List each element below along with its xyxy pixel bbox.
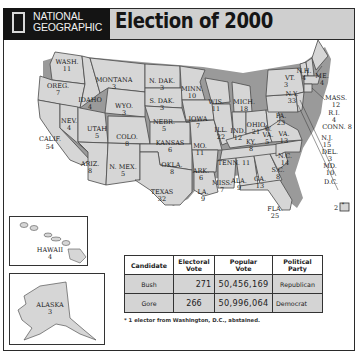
cell-party: Republican xyxy=(273,275,323,294)
svg-text:7: 7 xyxy=(56,89,60,97)
svg-text:8: 8 xyxy=(170,168,174,176)
header-political-party: PoliticalParty xyxy=(273,256,323,275)
svg-text:13: 13 xyxy=(280,137,288,145)
cell-electoral: 266 xyxy=(174,294,215,313)
cell-candidate: Gore xyxy=(125,294,174,313)
svg-text:54: 54 xyxy=(46,143,54,151)
table-row: Gore 266 50,996,064 Democrat xyxy=(125,294,323,313)
svg-text:11: 11 xyxy=(63,65,71,73)
svg-text:14: 14 xyxy=(281,159,289,167)
state-conn xyxy=(304,84,312,92)
svg-text:4: 4 xyxy=(302,74,306,82)
table-row: Bush 271 50,456,169 Republican xyxy=(125,275,323,294)
svg-text:3: 3 xyxy=(122,109,126,117)
svg-text:5: 5 xyxy=(121,170,125,178)
footnote: * 1 elector from Washington, D.C., absta… xyxy=(124,317,260,323)
svg-text:10: 10 xyxy=(326,169,334,177)
svg-text:4: 4 xyxy=(88,103,92,111)
svg-text:8: 8 xyxy=(249,145,253,153)
svg-text:25: 25 xyxy=(271,212,279,220)
svg-text:12: 12 xyxy=(234,134,242,142)
header-popular-vote: PopularVote xyxy=(215,256,273,275)
svg-text:3: 3 xyxy=(160,104,164,112)
svg-text:23: 23 xyxy=(277,119,285,127)
svg-text:2: 2 xyxy=(334,204,338,212)
cell-candidate: Bush xyxy=(125,275,174,294)
svg-text:5: 5 xyxy=(162,125,166,133)
svg-text:13: 13 xyxy=(256,182,264,190)
svg-text:7: 7 xyxy=(196,122,200,130)
cell-electoral: 271 xyxy=(174,275,215,294)
table-header-row: Candidate ElectoralVote PopularVote Poli… xyxy=(125,256,323,275)
svg-text:7: 7 xyxy=(220,186,224,194)
header-candidate: Candidate xyxy=(125,256,174,275)
svg-text:11: 11 xyxy=(212,105,220,113)
svg-text:22: 22 xyxy=(217,133,225,141)
hawaii-inset: HAWAII 4 xyxy=(9,216,88,266)
svg-text:CONN. 8: CONN. 8 xyxy=(322,123,352,131)
svg-text:D.C.: D.C. xyxy=(324,178,338,186)
svg-text:8: 8 xyxy=(276,173,280,181)
svg-text:3: 3 xyxy=(112,83,116,91)
svg-text:3: 3 xyxy=(284,81,288,89)
svg-text:11: 11 xyxy=(196,149,204,157)
svg-text:33: 33 xyxy=(288,97,296,105)
svg-text:3: 3 xyxy=(48,308,52,316)
svg-text:4: 4 xyxy=(48,253,52,261)
svg-text:3: 3 xyxy=(160,84,164,92)
svg-text:32: 32 xyxy=(158,195,166,203)
svg-text:9: 9 xyxy=(237,184,241,192)
svg-text:8: 8 xyxy=(88,167,92,175)
svg-text:4: 4 xyxy=(320,79,324,87)
svg-text:8: 8 xyxy=(125,140,129,148)
svg-text:10: 10 xyxy=(188,92,196,100)
svg-text:5: 5 xyxy=(95,132,99,140)
cell-popular: 50,456,169 xyxy=(215,275,273,294)
svg-text:9: 9 xyxy=(201,195,205,203)
svg-text:TENN. 11: TENN. 11 xyxy=(218,159,250,167)
svg-text:12: 12 xyxy=(332,101,340,109)
svg-text:4: 4 xyxy=(67,124,71,132)
svg-text:18: 18 xyxy=(240,105,248,113)
cell-party: Democrat xyxy=(273,294,323,313)
alaska-inset: ALASKA 3 xyxy=(9,273,105,345)
header-electoral-vote: ElectoralVote xyxy=(174,256,215,275)
svg-text:6: 6 xyxy=(199,174,203,182)
svg-text:6: 6 xyxy=(168,146,172,154)
alaska-shape: ALASKA 3 xyxy=(10,274,106,346)
hawaii-islands: HAWAII 4 xyxy=(10,217,89,267)
cell-popular: 50,996,064 xyxy=(215,294,273,313)
svg-text:CALIF.: CALIF. xyxy=(39,135,61,143)
svg-text:21: 21 xyxy=(252,128,260,136)
election-results-table: Candidate ElectoralVote PopularVote Poli… xyxy=(124,255,323,313)
svg-text:5: 5 xyxy=(265,138,269,146)
